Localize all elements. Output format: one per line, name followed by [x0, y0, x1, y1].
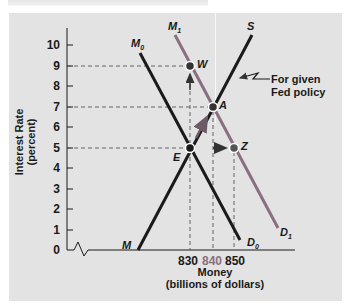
- y-axis-title: Interest Rate (percent): [13, 87, 37, 197]
- y-tick-1: 1: [40, 223, 60, 237]
- y-axis-title-line2: (percent): [25, 87, 37, 197]
- point-label-z: Z: [241, 140, 248, 152]
- point-label-e: E: [173, 151, 180, 163]
- x-axis-title-line2: (billions of dollars): [150, 278, 280, 290]
- y-tick-10: 10: [40, 38, 60, 52]
- annotation-fed-policy: For given Fed policy: [271, 73, 325, 99]
- y-tick-9: 9: [40, 59, 60, 73]
- label-m0: M0: [131, 37, 144, 51]
- y-tick-7: 7: [40, 100, 60, 114]
- x-axis-title: Money (billions of dollars): [150, 266, 280, 290]
- y-axis-title-line1: Interest Rate: [13, 87, 25, 197]
- annotation-line1: For given: [271, 73, 325, 86]
- guide-lines: [67, 66, 234, 250]
- y-tick-6: 6: [40, 120, 60, 134]
- label-d1: D1: [280, 226, 292, 240]
- y-tick-2: 2: [40, 202, 60, 216]
- y-tick-8: 8: [40, 79, 60, 93]
- label-s: S: [247, 20, 254, 32]
- arrow-e-to-a: [196, 117, 207, 138]
- x-axis-title-line1: Money: [150, 266, 280, 278]
- annotation-pointer: [240, 73, 270, 79]
- axes: [67, 28, 295, 256]
- label-m: M: [122, 239, 131, 251]
- y-tick-0: 0: [40, 243, 60, 257]
- label-m1: M1: [168, 20, 181, 34]
- y-ticks: [67, 45, 73, 230]
- y-tick-3: 3: [40, 182, 60, 196]
- point-label-w: W: [197, 58, 207, 70]
- point-label-a: A: [219, 99, 227, 111]
- y-tick-4: 4: [40, 161, 60, 175]
- annotation-line2: Fed policy: [271, 86, 325, 99]
- y-tick-5: 5: [40, 141, 60, 155]
- label-d0: D0: [247, 236, 259, 250]
